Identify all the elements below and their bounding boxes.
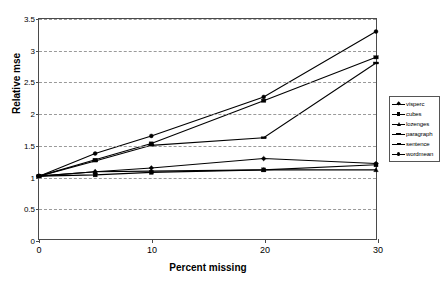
series-layer (39, 19, 376, 239)
data-point-visperc (261, 156, 266, 161)
legend-marker-triangle-icon (392, 120, 405, 128)
legend-item-label: paragraph (406, 130, 432, 138)
y-tick-mark (36, 146, 39, 147)
gridline-y (39, 114, 376, 115)
y-tick-label: 1 (31, 173, 35, 182)
gridline-y (39, 51, 376, 52)
gridline-y (39, 209, 376, 210)
gridline-y (39, 19, 376, 20)
y-axis-title: Relative mse (11, 34, 22, 134)
x-tick-mark (39, 239, 40, 243)
data-point-paragraph (261, 137, 266, 139)
legend-item-label: cubes (406, 110, 422, 118)
x-tick-mark (378, 239, 379, 243)
x-axis-title: Percent missing (38, 262, 378, 273)
data-point-wordmean (374, 30, 378, 34)
series-line-wordmean (39, 32, 376, 177)
x-tick-mark (152, 239, 153, 243)
y-tick-mark (36, 19, 39, 20)
series-line-paragraph (39, 63, 376, 176)
legend-marker-square-icon (392, 110, 405, 118)
x-tick-label: 0 (36, 245, 41, 255)
y-tick-label: 3.5 (24, 15, 35, 24)
legend-item-visperc[interactable]: visperc (392, 99, 438, 109)
x-tick-label: 20 (260, 245, 270, 255)
data-point-wordmean (262, 95, 266, 99)
y-tick-mark (36, 114, 39, 115)
y-tick-label: 2.5 (24, 78, 35, 87)
legend-item-label: sentence (406, 140, 430, 148)
gridline-y (39, 82, 376, 83)
legend-marker-diamond-icon (392, 100, 405, 108)
y-tick-mark (36, 51, 39, 52)
data-point-wordmean (93, 152, 97, 156)
legend-item-sentence[interactable]: sentence (392, 139, 438, 149)
data-point-sentence (261, 99, 265, 102)
data-point-sentence (374, 56, 378, 59)
data-point-cubes (374, 163, 378, 167)
legend: visperccubeslozengesparagraphsentencewor… (389, 96, 440, 162)
y-tick-label: 0.5 (24, 205, 35, 214)
legend-item-wordmean[interactable]: wordmean (392, 149, 438, 159)
x-tick-mark (265, 239, 266, 243)
legend-item-label: lozenges (406, 120, 429, 128)
data-point-sentence (93, 158, 97, 161)
x-tick-label: 30 (373, 245, 383, 255)
gridline-y (39, 178, 376, 179)
y-tick-label: 2 (31, 110, 35, 119)
gridline-y (39, 146, 376, 147)
y-tick-label: 3 (31, 46, 35, 55)
data-point-paragraph (373, 62, 378, 64)
relative-mse-line-chart: Relative mse 00.511.522.533.50102030 Per… (0, 0, 443, 284)
y-tick-mark (36, 209, 39, 210)
plot-area: 00.511.522.533.50102030 (38, 18, 377, 240)
data-point-sentence (149, 142, 153, 145)
y-tick-label: 0 (31, 237, 35, 246)
data-point-wordmean (149, 134, 153, 138)
y-tick-mark (36, 82, 39, 83)
legend-item-lozenges[interactable]: lozenges (392, 119, 438, 129)
legend-item-label: wordmean (406, 150, 433, 158)
y-tick-label: 1.5 (24, 141, 35, 150)
legend-item-paragraph[interactable]: paragraph (392, 129, 438, 139)
legend-item-label: visperc (406, 100, 424, 108)
legend-marker-cross-icon (392, 130, 405, 138)
x-tick-label: 10 (147, 245, 157, 255)
legend-item-cubes[interactable]: cubes (392, 109, 438, 119)
chart-title (0, 1, 390, 10)
legend-marker-circle-icon (392, 150, 405, 158)
legend-marker-dash-icon (392, 140, 405, 148)
y-tick-mark (36, 178, 39, 179)
